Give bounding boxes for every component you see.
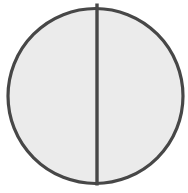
halved-circle-diagram [0, 0, 188, 193]
